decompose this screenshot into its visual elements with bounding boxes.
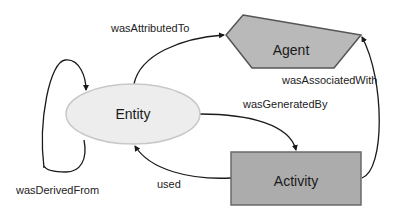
edge-was-attributed-to — [134, 35, 224, 84]
provenance-diagram: Agent Entity Activity wasAttributedTo wa… — [0, 0, 404, 215]
edge-was-derived-from-tail — [44, 140, 85, 172]
label-was-associated-with: wasAssociatedWith — [281, 74, 377, 86]
label-was-derived-from: wasDerivedFrom — [15, 184, 99, 196]
entity-label: Entity — [115, 106, 150, 122]
edge-was-generated-by — [200, 114, 296, 150]
edge-was-associated-with — [362, 37, 379, 178]
edge-used — [135, 146, 231, 178]
label-was-generated-by: wasGeneratedBy — [242, 98, 328, 110]
agent-label: Agent — [273, 42, 310, 58]
label-used: used — [157, 178, 181, 190]
activity-label: Activity — [274, 173, 318, 189]
label-was-attributed-to: wasAttributedTo — [110, 22, 189, 34]
